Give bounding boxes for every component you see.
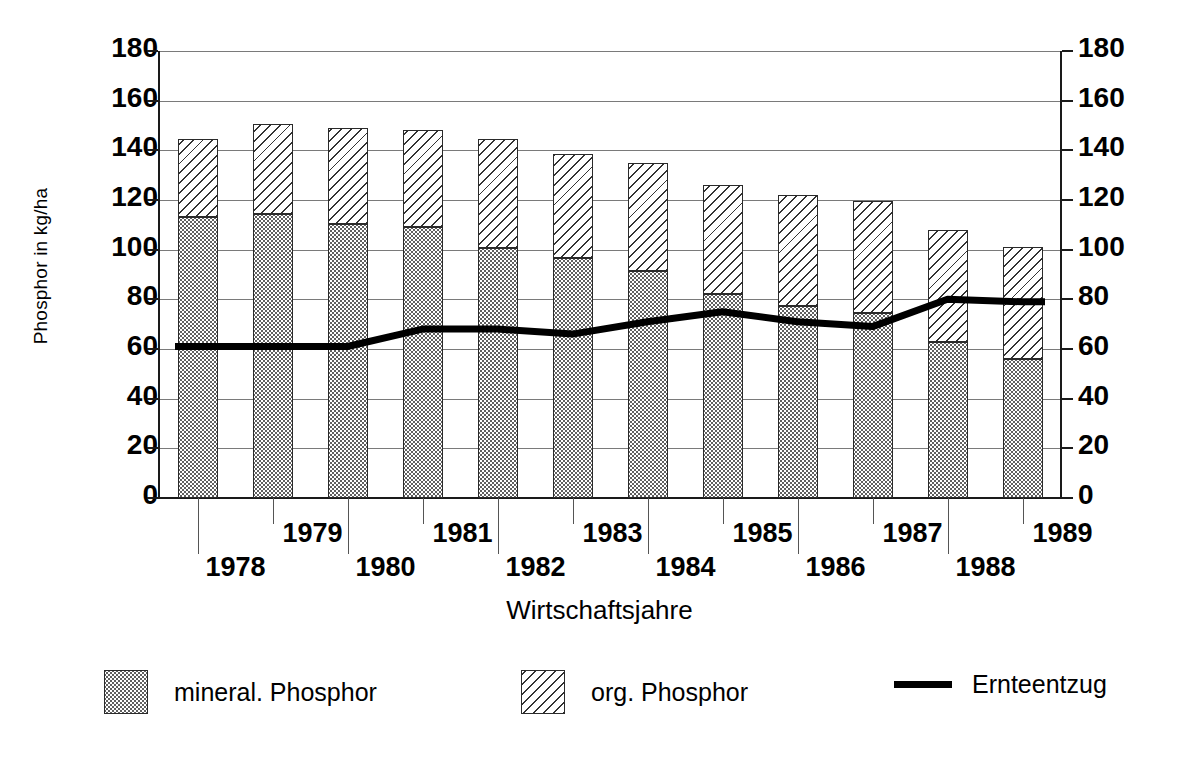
x-axis-title: Wirtschaftsjahre bbox=[0, 595, 1199, 626]
y-tick-label-left: 40 bbox=[127, 382, 158, 410]
axis-tick bbox=[147, 398, 158, 400]
y-tick-label-left: 80 bbox=[127, 282, 158, 310]
legend-label-org-phosphor: org. Phosphor bbox=[591, 678, 748, 707]
y-tick-label-right: 0 bbox=[1078, 481, 1094, 509]
y-tick-label-right: 20 bbox=[1078, 431, 1109, 459]
axis-tick bbox=[1062, 298, 1073, 300]
axis-tick bbox=[1062, 149, 1073, 151]
axis-tick bbox=[1062, 199, 1073, 201]
y-tick-label-left: 160 bbox=[111, 84, 158, 112]
axis-tick bbox=[147, 348, 158, 350]
x-axis-tick bbox=[723, 498, 724, 524]
x-axis-label-1986: 1986 bbox=[805, 554, 865, 581]
x-axis-label-1987: 1987 bbox=[882, 520, 942, 547]
axis-tick bbox=[1062, 348, 1073, 350]
y-tick-label-left: 140 bbox=[111, 133, 158, 161]
x-axis-label-1983: 1983 bbox=[582, 520, 642, 547]
legend-item-org-phosphor: org. Phosphor bbox=[521, 670, 748, 714]
legend-item-ernteentzug: Ernteentzug bbox=[894, 670, 1107, 699]
chart-legend: mineral. Phosphor org. Phosphor Ernteent… bbox=[0, 668, 1199, 728]
y-tick-label-left: 60 bbox=[127, 332, 158, 360]
axis-tick bbox=[147, 199, 158, 201]
axis-tick bbox=[1062, 497, 1073, 499]
legend-label-ernteentzug: Ernteentzug bbox=[972, 670, 1107, 699]
x-axis-label-1984: 1984 bbox=[655, 554, 715, 581]
x-axis-label-1985: 1985 bbox=[732, 520, 792, 547]
x-axis-tick bbox=[948, 498, 949, 554]
y-tick-label-right: 140 bbox=[1078, 133, 1125, 161]
x-axis-label-1988: 1988 bbox=[955, 554, 1015, 581]
phosphorus-balance-chart: Phosphor in kg/ha 0204060801001201401601… bbox=[0, 0, 1199, 770]
axis-tick bbox=[147, 249, 158, 251]
x-axis-tick bbox=[198, 498, 199, 554]
legend-label-mineral-phosphor: mineral. Phosphor bbox=[174, 678, 377, 707]
axis-tick bbox=[147, 100, 158, 102]
axis-tick bbox=[1062, 249, 1073, 251]
y-tick-label-right: 80 bbox=[1078, 282, 1109, 310]
x-axis-tick bbox=[573, 498, 574, 524]
y-tick-label-right: 100 bbox=[1078, 233, 1125, 261]
dotted-swatch-icon bbox=[104, 670, 148, 714]
legend-item-mineral-phosphor: mineral. Phosphor bbox=[104, 670, 377, 714]
y-tick-label-left: 180 bbox=[111, 34, 158, 62]
axis-tick bbox=[1062, 447, 1073, 449]
axis-tick bbox=[1062, 50, 1073, 52]
axis-tick bbox=[147, 447, 158, 449]
axis-tick bbox=[147, 497, 158, 499]
x-axis-tick bbox=[1023, 498, 1024, 524]
ernteentzug-polyline bbox=[175, 299, 1045, 346]
axis-tick bbox=[1062, 100, 1073, 102]
y-tick-label-left: 0 bbox=[142, 481, 158, 509]
ernteentzug-line-series bbox=[160, 51, 1060, 498]
x-axis-tick bbox=[498, 498, 499, 554]
y-axis-title: Phosphor in kg/ha bbox=[30, 146, 52, 386]
x-axis-tick bbox=[648, 498, 649, 554]
plot-area bbox=[160, 51, 1060, 498]
x-axis-label-1978: 1978 bbox=[205, 554, 265, 581]
x-axis-tick bbox=[798, 498, 799, 554]
y-tick-label-right: 180 bbox=[1078, 34, 1125, 62]
y-tick-label-right: 160 bbox=[1078, 84, 1125, 112]
x-axis-label-1989: 1989 bbox=[1032, 520, 1092, 547]
x-axis-label-1979: 1979 bbox=[282, 520, 342, 547]
y-tick-label-right: 40 bbox=[1078, 382, 1109, 410]
y-tick-label-left: 20 bbox=[127, 431, 158, 459]
y-tick-label-right: 120 bbox=[1078, 183, 1125, 211]
hatched-swatch-icon bbox=[521, 670, 565, 714]
axis-tick bbox=[147, 149, 158, 151]
y-tick-label-right: 60 bbox=[1078, 332, 1109, 360]
y-tick-label-left: 120 bbox=[111, 183, 158, 211]
axis-tick bbox=[1062, 398, 1073, 400]
x-axis-label-1981: 1981 bbox=[432, 520, 492, 547]
y-tick-label-left: 100 bbox=[111, 233, 158, 261]
line-swatch-icon bbox=[894, 681, 952, 688]
axis-tick bbox=[147, 50, 158, 52]
axis-tick bbox=[147, 298, 158, 300]
x-axis-label-1980: 1980 bbox=[355, 554, 415, 581]
axis-line-right bbox=[1060, 51, 1062, 498]
x-axis-tick bbox=[873, 498, 874, 524]
x-axis-label-1982: 1982 bbox=[505, 554, 565, 581]
x-axis-tick bbox=[273, 498, 274, 524]
x-axis-tick bbox=[348, 498, 349, 554]
x-axis-tick bbox=[423, 498, 424, 524]
